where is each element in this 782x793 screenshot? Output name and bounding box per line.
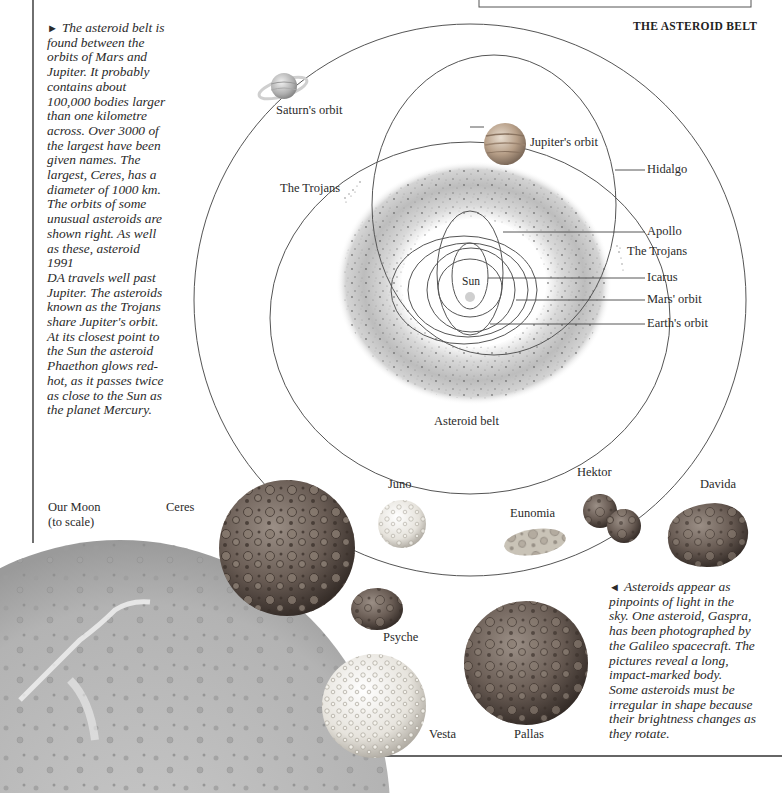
label-hektor: Hektor [577, 465, 612, 480]
page-title: THE ASTEROID BELT [633, 20, 757, 32]
jupiter-icon [484, 123, 526, 165]
label-apollo: Apollo [647, 224, 682, 239]
label-vesta: Vesta [429, 727, 456, 742]
label-saturn-orbit: Saturn's orbit [276, 103, 343, 118]
right-triangle-icon: ► [47, 22, 58, 34]
label-mars-orbit: Mars' orbit [647, 292, 702, 307]
left-triangle-icon: ◄ [609, 581, 620, 593]
label-eunomia: Eunomia [510, 506, 555, 521]
psyche-image [351, 588, 403, 630]
label-trojans-right: The Trojans [627, 244, 687, 259]
hektor-image [583, 494, 641, 543]
label-moon: Our Moon [48, 500, 100, 515]
label-psyche: Psyche [383, 630, 418, 645]
sun-icon [465, 292, 475, 302]
label-pallas: Pallas [514, 727, 544, 742]
label-hidalgo: Hidalgo [647, 162, 687, 177]
side-paragraph: ◄Asteroids appear as pinpoints of light … [609, 580, 782, 742]
top-caption-box [479, 0, 751, 7]
eunomia-image [502, 525, 567, 559]
vesta-image [322, 654, 426, 758]
intro-paragraph: ►The asteroid belt is found between the … [47, 21, 167, 418]
label-trojans-left: The Trojans [280, 181, 340, 196]
label-juno: Juno [388, 477, 412, 492]
label-earth-orbit: Earth's orbit [647, 316, 708, 331]
saturn-icon [257, 73, 309, 104]
label-moon-note: (to scale) [48, 515, 94, 530]
davida-image [668, 503, 748, 567]
label-jupiter-orbit: Jupiter's orbit [530, 135, 598, 150]
juno-image [378, 500, 426, 548]
pallas-image [464, 601, 588, 725]
label-sun: Sun [462, 275, 480, 287]
ceres-image [219, 480, 355, 616]
label-asteroid-belt: Asteroid belt [434, 414, 499, 429]
label-davida: Davida [700, 477, 736, 492]
label-ceres: Ceres [166, 500, 194, 515]
label-icarus: Icarus [647, 270, 678, 285]
